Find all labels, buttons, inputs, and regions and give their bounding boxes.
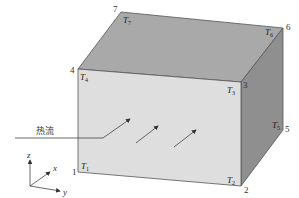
vertex-number-4: 4 [70,65,75,75]
vertex-number-6: 6 [286,22,291,32]
y-axis [30,186,60,191]
coordinate-axes: z x y [26,150,67,197]
vertex-number-3: 3 [243,80,248,90]
vertex-number-1: 1 [72,167,77,177]
front-face [78,69,241,186]
heat-flow-block-diagram: 热流 7 6 4 3 5 1 2 T7 T6 T4 T3 T5 T1 T2 z … [0,0,299,198]
vertex-number-2: 2 [244,185,249,195]
vertex-number-5: 5 [285,124,290,134]
x-axis [30,172,50,186]
heat-flow-label: 热流 [36,125,54,136]
vertex-number-7: 7 [113,4,118,14]
y-axis-label: y [62,187,67,197]
x-axis-label: x [52,163,57,173]
z-axis-label: z [26,150,31,160]
